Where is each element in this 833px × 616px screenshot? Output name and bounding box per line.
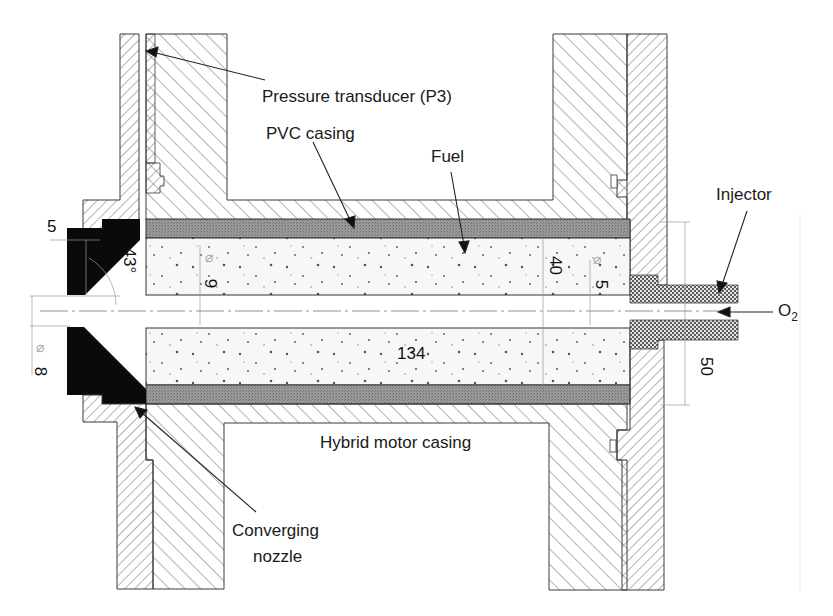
dim-diameter-symbol-2: ⌀	[36, 340, 44, 354]
dim-nozzle-angle: 43°	[121, 248, 138, 274]
dim-grain-outer: 40	[547, 256, 564, 275]
casing-block-bottom	[146, 404, 627, 590]
dim-nozzle-step: 5	[47, 218, 56, 235]
dim-diameter-symbol-1: ⌀	[205, 250, 213, 264]
left-flange-bottom	[83, 395, 153, 589]
label-converging-nozzle-2: nozzle	[253, 548, 302, 565]
pvc-casing-bottom	[146, 385, 630, 404]
left-flange-top	[83, 34, 139, 238]
pvc-casing-top	[146, 219, 630, 238]
left-casing-block-top	[146, 34, 627, 220]
dim-port-diameter: 9	[202, 279, 219, 288]
label-pressure-transducer: Pressure transducer (P3)	[262, 88, 452, 105]
nozzle-bottom	[67, 327, 146, 404]
dim-grain-length: 134	[397, 345, 425, 362]
label-hybrid-motor-casing: Hybrid motor casing	[320, 434, 471, 451]
dim-injector-bore: 5	[593, 280, 610, 289]
label-pvc-casing: PVC casing	[266, 125, 355, 142]
fuel-grain-bottom	[146, 328, 630, 385]
injector-bottom	[630, 320, 738, 349]
dim-diameter-symbol-3: ⌀	[593, 252, 601, 266]
dim-casing-outer: 50	[698, 357, 715, 376]
label-fuel: Fuel	[431, 148, 464, 165]
label-oxidizer: O2	[778, 302, 798, 319]
label-converging-nozzle-1: Converging	[232, 522, 319, 539]
label-injector: Injector	[716, 186, 772, 203]
dim-throat-diameter: 8	[32, 367, 49, 376]
